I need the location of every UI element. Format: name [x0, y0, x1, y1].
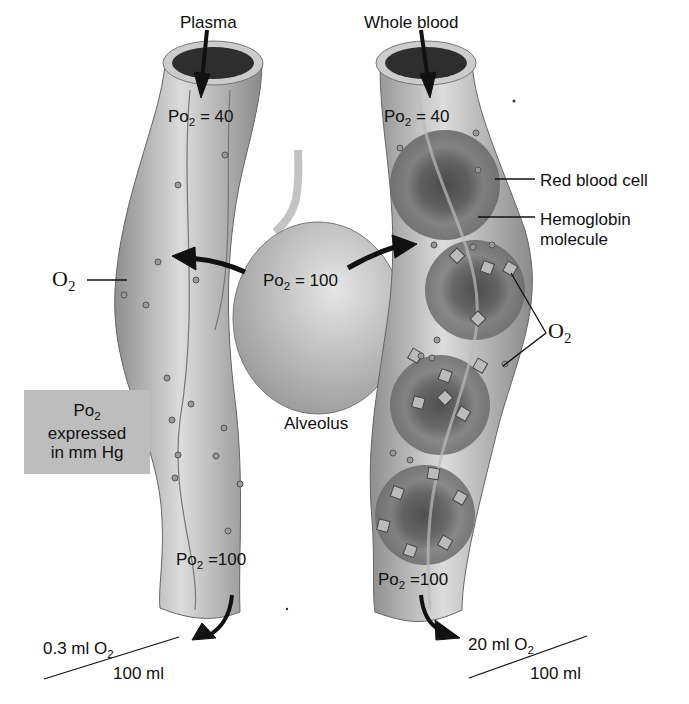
illustration: [0, 0, 689, 704]
diagram: Plasma Whole blood Po2 = 40 Po2 = 40 Po2…: [0, 0, 689, 704]
whole-blood-label: Whole blood: [364, 14, 459, 31]
plasma-lumen: [172, 47, 254, 79]
red-blood-cell-label: Red blood cell: [540, 172, 648, 189]
plasma-o2-numerator: 0.3 ml O2: [43, 640, 114, 661]
red-blood-cell: [390, 355, 490, 455]
red-blood-cell: [390, 130, 500, 240]
o2-label-blood: O2: [548, 320, 571, 346]
red-blood-cell: [375, 465, 475, 565]
plasma-o2-denominator: 100 ml: [113, 665, 164, 682]
po2-units-note: Po2 expressed in mm Hg: [24, 390, 150, 474]
blood-o2-denominator: 100 ml: [530, 665, 581, 682]
arrow-head: [435, 620, 460, 640]
plasma-po2-in: Po2 = 40: [168, 108, 234, 129]
o2-label-plasma: O2: [52, 268, 75, 294]
alveolus-po2: Po2 = 100: [263, 272, 338, 293]
plasma-po2-out: Po2 =100: [176, 551, 246, 572]
blood-o2-numerator: 20 ml O2: [468, 636, 534, 657]
hemoglobin-label: Hemoglobinmolecule: [540, 210, 631, 251]
blood-po2-out: Po2 =100: [378, 571, 448, 592]
plasma-label: Plasma: [180, 14, 237, 31]
blood-po2-in: Po2 = 40: [384, 108, 450, 129]
alveolus-label: Alveolus: [284, 415, 348, 432]
